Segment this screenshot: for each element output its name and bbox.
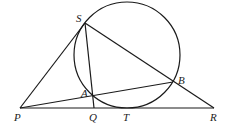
segment-SR xyxy=(85,23,214,108)
label-P: P xyxy=(13,111,21,123)
label-B: B xyxy=(178,74,185,86)
label-Q: Q xyxy=(89,111,97,123)
label-S: S xyxy=(76,12,82,24)
label-A: A xyxy=(80,87,88,99)
geometry-diagram: S P Q T R A B xyxy=(0,0,227,137)
circle xyxy=(74,2,180,108)
label-T: T xyxy=(123,111,130,123)
label-R: R xyxy=(209,111,217,123)
segment-PB xyxy=(20,82,173,108)
